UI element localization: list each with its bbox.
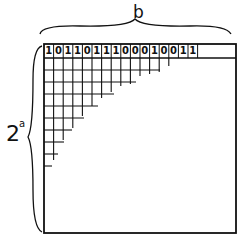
diagram-canvas	[0, 0, 244, 243]
bit-cell: 1	[92, 45, 102, 57]
bit-cell: 0	[169, 45, 179, 57]
triangular-grid	[44, 58, 169, 166]
bit-cell: 1	[150, 45, 160, 57]
bit-cell: 1	[188, 45, 198, 57]
bit-cell: 1	[178, 45, 188, 57]
bit-cell: 0	[159, 45, 169, 57]
width-label-b: b	[133, 2, 144, 22]
bit-cell: 0	[140, 45, 150, 57]
bit-cell: 0	[130, 45, 140, 57]
bit-cell: 1	[63, 45, 73, 57]
height-label-exponent: a	[19, 118, 25, 129]
bit-cell: 0	[82, 45, 92, 57]
bit-cell: 0	[54, 45, 64, 57]
bit-cell: 1	[73, 45, 83, 57]
bit-cell: 1	[102, 45, 112, 57]
bit-cell: 1	[111, 45, 121, 57]
height-label-base: 2	[6, 121, 20, 146]
bit-cell: 1	[44, 45, 54, 57]
left-brace	[28, 46, 42, 232]
bit-cell: 0	[121, 45, 131, 57]
